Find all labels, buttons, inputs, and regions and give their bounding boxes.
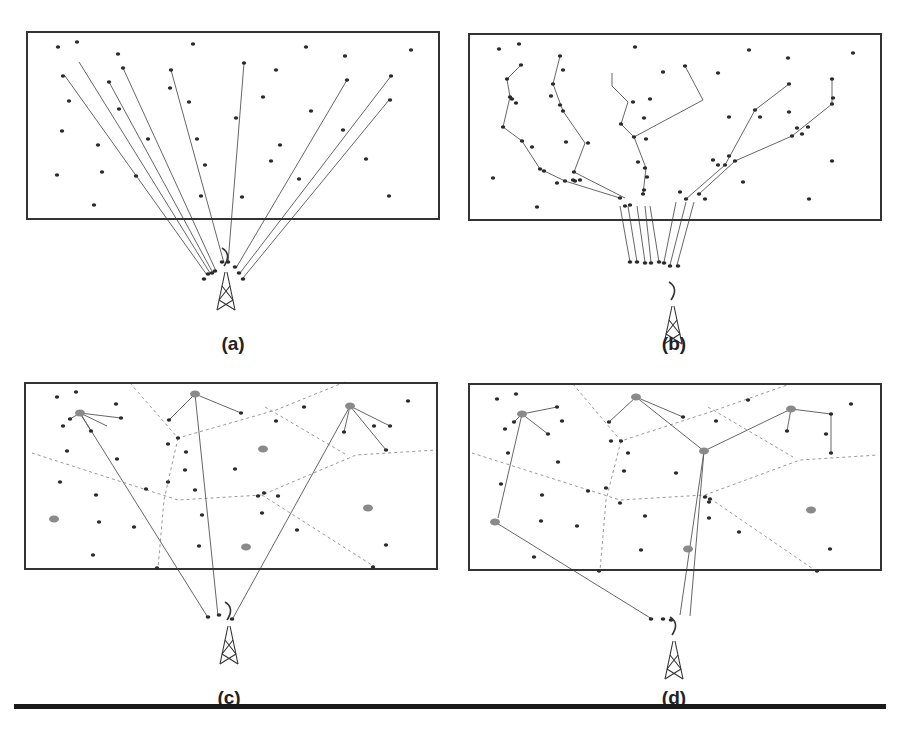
- sensor-node: [117, 107, 121, 110]
- sensor-node: [626, 451, 630, 454]
- sensor-node: [107, 80, 111, 83]
- sensor-node: [91, 553, 95, 556]
- sensor-node: [119, 416, 123, 419]
- sensor-node: [538, 167, 542, 170]
- sensor-node: [636, 160, 640, 163]
- sensor-node: [343, 54, 347, 57]
- routing-link: [650, 206, 659, 262]
- sensor-node: [618, 501, 622, 504]
- sensor-node: [242, 61, 246, 64]
- sensor-node: [200, 513, 204, 516]
- sensor-node: [92, 203, 96, 206]
- sensor-node: [512, 420, 516, 423]
- routing-link: [350, 406, 386, 450]
- sensor-node: [716, 163, 720, 166]
- routing-link: [195, 394, 241, 413]
- sensor-node: [75, 40, 79, 43]
- routing-link: [621, 124, 634, 137]
- sensor-node: [74, 390, 78, 393]
- sink-arrival-node: [206, 615, 211, 619]
- sensor-node: [100, 170, 104, 173]
- sensor-node: [94, 493, 98, 496]
- sensor-node: [806, 125, 810, 128]
- panel-a: (a): [27, 32, 439, 354]
- sensor-node: [61, 424, 65, 427]
- sensor-field-border: [27, 32, 439, 219]
- routing-link: [755, 84, 789, 110]
- sensor-node: [191, 42, 195, 45]
- sensor-node: [341, 128, 345, 131]
- sensor-node: [560, 419, 564, 422]
- sensor-node: [519, 63, 523, 66]
- sensor-node: [274, 419, 278, 422]
- sensor-node: [790, 134, 794, 137]
- sensor-node: [609, 439, 613, 442]
- sink-arrival-node: [643, 261, 648, 265]
- sensor-node: [555, 181, 559, 184]
- sensor-node: [234, 116, 238, 119]
- sensor-node: [503, 427, 507, 430]
- sensor-node: [785, 429, 789, 432]
- routing-link: [645, 206, 651, 262]
- sensor-node: [597, 569, 601, 572]
- sensor-node: [371, 565, 375, 568]
- sensor-node: [261, 95, 265, 98]
- routing-link: [503, 97, 510, 127]
- sensor-node: [297, 177, 301, 180]
- sensor-node: [697, 192, 701, 195]
- sensor-node: [561, 109, 565, 112]
- base-station-tower-icon: [665, 617, 683, 679]
- sensor-node: [829, 451, 833, 454]
- sensor-field-border: [469, 34, 881, 220]
- sensor-node: [193, 488, 197, 491]
- routing-link: [685, 66, 703, 100]
- routing-link: [636, 397, 704, 451]
- sensor-node: [727, 154, 731, 157]
- routing-link: [670, 202, 686, 265]
- routing-link: [195, 394, 218, 616]
- routing-link: [350, 406, 390, 426]
- routing-link: [628, 206, 637, 262]
- panel-label-b: (b): [662, 333, 686, 354]
- sensor-node: [618, 196, 622, 199]
- sensor-node: [195, 137, 199, 140]
- panel-b: (b): [469, 34, 881, 354]
- routing-link: [612, 86, 628, 102]
- sink-arrival-node: [661, 617, 666, 621]
- sensor-node: [499, 482, 503, 485]
- voronoi-boundary: [265, 407, 345, 454]
- sensor-node: [681, 415, 685, 418]
- sensor-node: [121, 66, 125, 69]
- sensor-node: [607, 420, 611, 423]
- sensor-node: [197, 544, 201, 547]
- sensor-node: [184, 450, 188, 453]
- sensor-node: [546, 432, 550, 435]
- cluster-head-node: [345, 403, 355, 410]
- sensor-node: [532, 555, 536, 558]
- routing-link: [240, 76, 391, 273]
- sensor-node: [678, 190, 682, 193]
- sensor-node: [176, 436, 180, 439]
- sensor-node: [539, 519, 543, 522]
- bottom-rule-divider: [14, 704, 886, 709]
- sensor-node: [830, 102, 834, 105]
- routing-link: [735, 136, 792, 161]
- sink-arrival-node: [213, 269, 218, 273]
- sensor-node: [716, 71, 720, 74]
- routing-link: [498, 414, 522, 518]
- sink-arrival-node: [662, 261, 667, 265]
- routing-link: [553, 84, 563, 111]
- sensor-node: [168, 86, 172, 89]
- routing-link: [686, 165, 725, 199]
- sensor-node: [96, 143, 100, 146]
- base-station-tower-icon: [220, 602, 238, 664]
- voronoi-boundary: [705, 495, 816, 571]
- sensor-node: [166, 442, 170, 445]
- routing-link: [634, 137, 646, 168]
- sink-arrival-node: [628, 260, 633, 264]
- sensor-node: [240, 195, 244, 198]
- sensor-node: [309, 109, 313, 112]
- routing-link: [609, 397, 636, 422]
- sink-arrival-node: [241, 277, 246, 281]
- sensor-node: [643, 514, 647, 517]
